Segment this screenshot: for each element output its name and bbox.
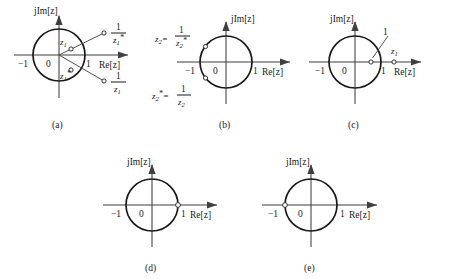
panel-b-imaginary-axis-arrow: [222, 21, 229, 31]
panel-a-caption: (a): [52, 120, 63, 131]
panel-a-marker-recip-z1-conj: [102, 31, 106, 35]
panel-b: −1 0 1 Re[z] jIm[z] z2= 1 z2* z2*= 1 z2 …: [151, 14, 290, 131]
panel-c-label-plus-one: 1: [381, 66, 386, 76]
panel-d-marker-point-at-one: [176, 203, 181, 208]
panel-a-label-plus-one: 1: [86, 59, 91, 69]
panel-c-marker-z1: [392, 60, 396, 64]
svg-text:1: 1: [116, 71, 121, 81]
panel-d-axis-label-imaginary: jIm[z]: [126, 157, 151, 167]
panel-a-real-axis-arrow: [118, 51, 128, 58]
panel-b-axis-label-imaginary: jIm[z]: [230, 14, 255, 24]
panel-d-caption: (d): [145, 263, 156, 274]
panel-a-imaginary-axis-arrow: [55, 15, 62, 25]
panel-c-axis-label-imaginary: jIm[z]: [329, 14, 354, 24]
panel-e-marker-point-at-minus-one: [283, 203, 288, 208]
panel-a-fraction-recip-z1-conj: 1 z1*: [111, 22, 126, 46]
panel-a-axis-label-imaginary: jIm[z]: [33, 6, 58, 16]
panel-a-fraction-recip-z1: 1 z1: [111, 71, 126, 95]
panel-d-real-axis-arrow: [207, 201, 217, 208]
panel-c-axis-label-real: Re[z]: [394, 67, 415, 77]
panel-b-axis-label-real: Re[z]: [262, 67, 283, 77]
panel-c-fraction-numerator: 1: [383, 27, 388, 37]
svg-text:1: 1: [116, 22, 121, 32]
panel-d: −1 0 1 Re[z] jIm[z] (d): [103, 157, 217, 274]
panel-c-marker-recip-z1: [369, 60, 373, 64]
panel-b-equation-z2-conj: z2*= 1 z2: [151, 84, 191, 108]
panel-a-marker-z1: [69, 47, 73, 51]
panel-c-real-axis-arrow: [411, 58, 421, 65]
panel-e-label-minus-one: −1: [268, 209, 278, 219]
svg-text:1: 1: [179, 25, 184, 35]
svg-text:z2=: z2=: [154, 34, 168, 45]
panel-a-point-label-z1: z1: [59, 37, 67, 48]
panel-b-marker-z2-conj: [203, 76, 207, 80]
panel-b-caption: (b): [219, 120, 230, 131]
panel-e-caption: (e): [304, 263, 315, 274]
panel-c: −1 0 1 Re[z] jIm[z] 1 z1 (c): [309, 14, 421, 131]
svg-text:z1: z1: [113, 84, 121, 95]
svg-text:z2*=: z2*=: [151, 89, 169, 102]
svg-text:z2: z2: [177, 97, 186, 108]
panel-a-label-origin: 0: [46, 59, 51, 69]
panel-e-label-origin: 0: [298, 209, 303, 219]
panel-b-real-axis-arrow: [280, 58, 290, 65]
panel-c-caption: (c): [348, 120, 359, 131]
panel-a: −1 0 1 Re[z] jIm[z] z1 z1* 1 z1* 1 z1 (a…: [14, 6, 128, 131]
panel-d-label-minus-one: −1: [111, 209, 121, 219]
svg-text:z1*: z1*: [112, 33, 124, 46]
panel-d-label-plus-one: 1: [181, 209, 186, 219]
panel-e-axis-label-real: Re[z]: [349, 210, 370, 220]
panel-b-label-origin: 0: [213, 66, 218, 76]
panel-c-label-origin: 0: [342, 66, 347, 76]
panel-e: −1 0 1 Re[z] jIm[z] (e): [262, 157, 377, 274]
panel-a-axis-label-real: Re[z]: [99, 60, 120, 70]
panel-a-label-minus-one: −1: [18, 59, 28, 69]
panel-a-marker-recip-z1: [102, 79, 106, 83]
svg-text:z2*: z2*: [175, 36, 187, 49]
panel-d-label-origin: 0: [139, 209, 144, 219]
panel-c-point-label-z1: z1: [390, 46, 398, 57]
complex-plane-figure: −1 0 1 Re[z] jIm[z] z1 z1* 1 z1* 1 z1 (a…: [0, 0, 470, 279]
panel-e-label-plus-one: 1: [340, 209, 345, 219]
panel-b-marker-z2: [203, 44, 207, 48]
panel-c-label-minus-one: −1: [315, 66, 325, 76]
svg-text:1: 1: [181, 84, 186, 94]
panel-e-axis-label-imaginary: jIm[z]: [285, 157, 310, 167]
panel-a-point-label-z1-conj: z1*: [59, 69, 71, 82]
panel-d-axis-label-real: Re[z]: [190, 210, 211, 220]
panel-b-label-plus-one: 1: [253, 66, 258, 76]
panel-b-label-minus-one: −1: [185, 66, 195, 76]
panel-b-equation-z2: z2= 1 z2*: [154, 25, 190, 49]
panel-e-real-axis-arrow: [367, 201, 377, 208]
